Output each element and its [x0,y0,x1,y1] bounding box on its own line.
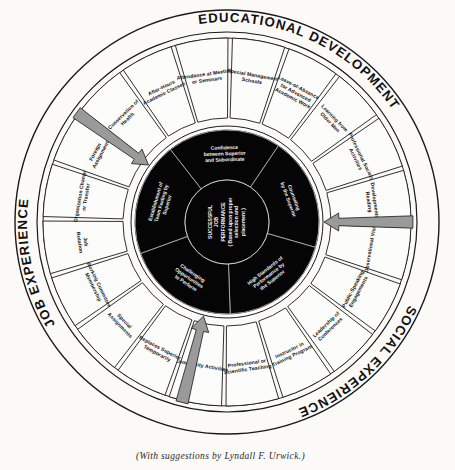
center-line: ( Based upon proper [227,198,233,247]
diagram-caption: (With suggestions by Lyndall F. Urwick.) [0,451,455,461]
center-line: JOB [213,216,219,227]
caption-text: (With suggestions by Lyndall F. Urwick.) [136,451,319,461]
center-line: placement ) [240,208,246,236]
center-line: PERFORMANCE [220,202,226,242]
wheel-diagram: After-HoursAcademic ClassesAttendance at… [0,0,455,470]
executive-development-wheel: After-HoursAcademic ClassesAttendance at… [0,0,455,470]
center-line: selection and [233,206,239,238]
center-line: SUCCESSFUL [207,205,213,239]
